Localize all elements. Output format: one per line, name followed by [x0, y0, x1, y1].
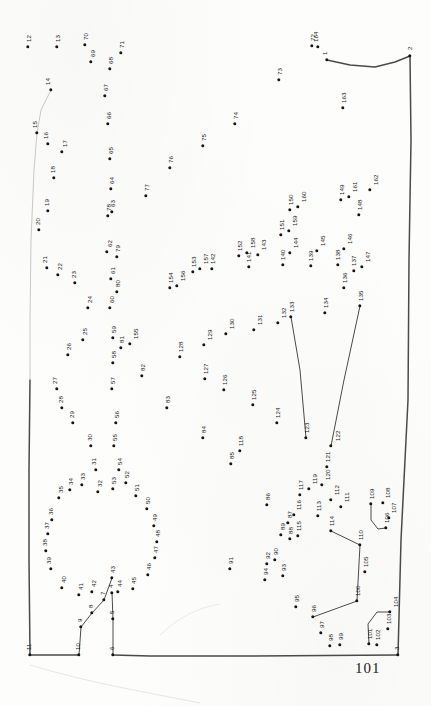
point-label-142: 142 [210, 253, 216, 264]
point-label-148: 148 [357, 199, 363, 210]
point-label-27: 27 [52, 377, 58, 384]
point-label-29: 29 [69, 411, 75, 418]
point-label-144: 144 [293, 237, 299, 248]
point-label-155: 155 [133, 328, 139, 339]
point-label-158: 158 [250, 237, 256, 248]
point-label-96: 96 [311, 605, 317, 612]
point-label-90: 90 [273, 548, 279, 555]
point-label-3: 3 [394, 646, 400, 650]
point-label-2: 2 [407, 46, 413, 50]
point-label-97: 97 [319, 621, 325, 628]
point-label-154: 154 [168, 272, 174, 283]
point-label-111: 111 [344, 492, 350, 502]
point-label-26: 26 [66, 343, 72, 350]
point-label-122: 122 [335, 430, 341, 441]
point-label-9: 9 [77, 618, 83, 622]
point-label-31: 31 [91, 458, 97, 465]
point-label-98: 98 [328, 634, 334, 641]
point-label-140: 140 [280, 249, 286, 260]
point-label-34: 34 [68, 478, 74, 485]
polyline-seg-114-96 [313, 531, 360, 617]
point-label-7: 7 [100, 591, 106, 595]
point-label-104: 104 [393, 596, 399, 607]
point-label-82: 82 [140, 364, 146, 371]
point-label-152: 152 [237, 240, 243, 251]
point-label-37: 37 [44, 522, 50, 529]
point-label-32: 32 [97, 480, 103, 487]
polyline-right-boundary [398, 56, 411, 655]
point-label-84: 84 [201, 426, 207, 433]
point-label-17: 17 [62, 140, 68, 147]
polyline-seg-133-123 [291, 317, 306, 438]
point-label-108: 108 [385, 487, 391, 498]
point-label-88: 88 [288, 527, 294, 534]
polyline-bottom-boundary [113, 655, 398, 656]
point-label-21: 21 [42, 256, 48, 263]
point-label-128: 128 [178, 341, 184, 352]
point-label-129: 129 [207, 329, 213, 340]
point-label-24: 24 [87, 296, 93, 303]
point-label-151: 151 [279, 219, 285, 230]
point-label-146: 146 [347, 233, 353, 244]
point-label-105: 105 [363, 556, 369, 567]
point-label-89: 89 [280, 523, 286, 530]
point-label-138: 138 [335, 249, 341, 260]
boundary-lines-layer [29, 56, 411, 656]
point-label-15: 15 [32, 121, 38, 128]
survey-sheet: 1234567891011121314151617181920212223242… [0, 0, 431, 706]
point-label-130: 130 [229, 318, 235, 329]
point-label-83: 83 [165, 396, 171, 403]
point-label-62: 62 [107, 240, 113, 247]
point-label-76: 76 [168, 156, 174, 163]
point-label-38: 38 [42, 539, 48, 546]
point-label-163: 163 [341, 92, 347, 103]
point-label-81: 81 [119, 336, 125, 343]
point-label-121: 121 [325, 451, 331, 462]
point-label-58: 58 [111, 351, 117, 358]
page-number: 101 [355, 660, 381, 677]
point-label-145: 145 [320, 235, 326, 246]
point-label-126: 126 [222, 374, 228, 385]
point-label-51: 51 [134, 484, 140, 491]
point-label-149: 149 [339, 184, 345, 195]
point-label-28: 28 [58, 396, 64, 403]
point-label-94: 94 [263, 568, 269, 575]
point-label-14: 14 [45, 78, 51, 85]
point-label-117: 117 [298, 480, 304, 490]
point-label-48: 48 [155, 530, 161, 537]
point-label-55: 55 [112, 434, 118, 441]
point-label-57: 57 [110, 377, 116, 384]
point-label-137: 137 [351, 255, 357, 266]
point-label-71: 71 [119, 41, 125, 48]
point-label-16: 16 [43, 132, 49, 139]
point-label-19: 19 [44, 199, 50, 206]
point-label-102: 102 [375, 629, 381, 640]
point-label-113: 113 [316, 501, 322, 511]
point-label-162: 162 [373, 174, 379, 185]
point-label-160: 160 [301, 191, 307, 202]
point-label-22: 22 [57, 263, 63, 270]
point-label-75: 75 [201, 134, 207, 141]
point-label-115: 115 [296, 521, 302, 531]
point-label-107: 107 [391, 502, 397, 513]
point-label-119: 119 [312, 474, 318, 484]
point-label-45: 45 [131, 577, 137, 584]
point-label-136: 136 [342, 272, 348, 283]
point-label-50: 50 [145, 497, 151, 504]
point-label-65: 65 [108, 147, 114, 154]
point-label-123: 123 [304, 422, 310, 433]
point-label-157: 157 [203, 253, 209, 264]
point-label-42: 42 [91, 580, 97, 587]
point-label-74: 74 [233, 112, 239, 119]
point-label-85: 85 [229, 452, 235, 459]
point-label-93: 93 [281, 564, 287, 571]
point-label-23: 23 [71, 271, 77, 278]
point-label-92: 92 [265, 552, 271, 559]
point-label-8: 8 [88, 604, 94, 608]
point-label-52: 52 [124, 471, 130, 478]
point-label-53: 53 [111, 477, 117, 484]
point-label-67: 67 [103, 84, 109, 91]
point-label-46: 46 [146, 563, 152, 570]
point-label-112: 112 [334, 485, 340, 495]
point-label-44: 44 [117, 580, 123, 587]
